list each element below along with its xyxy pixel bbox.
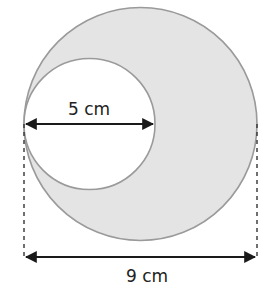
outer-diameter-label: 9 cm (126, 266, 168, 286)
inner-diameter-label: 5 cm (68, 99, 110, 119)
circle-diagram: 5 cm 9 cm (0, 0, 270, 305)
